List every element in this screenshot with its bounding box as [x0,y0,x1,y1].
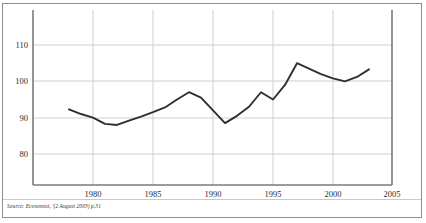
y-tick-80: 80 [8,150,28,159]
x-tick-1990: 1990 [193,190,233,199]
vertical-gridlines [93,10,333,185]
chart-figure: 110 100 90 80 1980 1985 1990 1995 2000 2… [0,0,426,223]
x-tick-1980: 1980 [73,190,113,199]
y-tick-110: 110 [8,41,28,50]
x-tick-1995: 1995 [253,190,293,199]
y-tick-90: 90 [8,114,28,123]
data-line-index [69,63,369,125]
x-tick-1985: 1985 [133,190,173,199]
x-tick-2000: 2000 [313,190,353,199]
source-note: Source: Economist, '(2 August 2003) p.31 [7,203,101,209]
y-tick-100: 100 [8,77,28,86]
x-tick-2005: 2005 [372,190,412,199]
source-divider [3,199,421,200]
